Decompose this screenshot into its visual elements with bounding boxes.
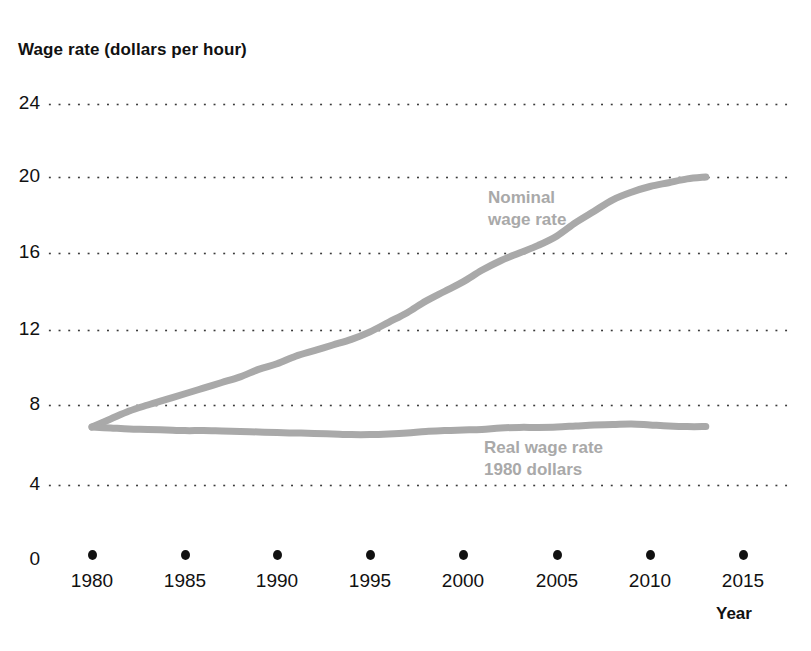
real-wage-rate-label-line1: Real wage rate [484, 437, 603, 459]
wage-rate-chart: Wage rate (dollars per hour) 04812162024… [0, 0, 811, 651]
nominal-wage-rate-line [92, 177, 706, 427]
nominal-wage-rate-label: Nominal wage rate [488, 187, 566, 232]
nominal-wage-rate-label-line1: Nominal [488, 187, 566, 209]
real-wage-rate-line [92, 424, 706, 435]
real-wage-rate-label-line2: 1980 dollars [484, 459, 603, 481]
nominal-wage-rate-label-line2: wage rate [488, 209, 566, 231]
x-axis-title: Year [716, 604, 752, 624]
real-wage-rate-label: Real wage rate 1980 dollars [484, 437, 603, 482]
series-curves [0, 0, 811, 651]
